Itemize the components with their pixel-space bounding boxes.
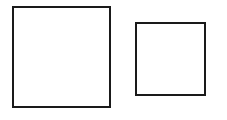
large-square xyxy=(12,6,111,108)
diagram-canvas xyxy=(0,0,227,120)
small-square xyxy=(135,22,206,96)
